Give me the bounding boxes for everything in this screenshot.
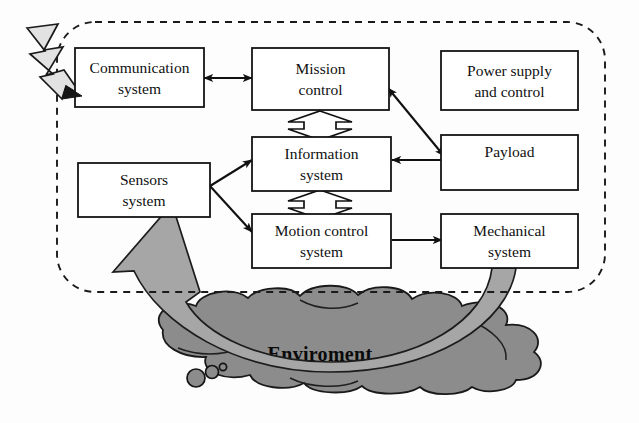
node-mission-line2: control	[299, 81, 343, 98]
node-information-line2: system	[300, 166, 343, 183]
connector-mission-information	[288, 111, 352, 140]
node-power-line2: and control	[474, 83, 544, 100]
node-power-supply[interactable]: Power supply and control	[441, 51, 578, 110]
node-payload[interactable]: Payload	[441, 135, 578, 190]
node-sensors-system[interactable]: Sensors system	[78, 163, 210, 217]
node-communication-line1: Communication	[90, 59, 190, 76]
node-motion-line1: Motion control	[275, 222, 368, 239]
node-sensors-line1: Sensors	[120, 171, 168, 188]
node-mechanical-line2: system	[488, 243, 531, 260]
bubble-small	[206, 366, 219, 379]
node-power-rect	[441, 51, 578, 110]
node-payload-line1: Payload	[485, 143, 535, 160]
node-communication-system[interactable]: Communication system	[75, 48, 204, 107]
node-communication-rect	[75, 48, 204, 107]
connector-mission-payload	[388, 88, 444, 156]
node-information-system[interactable]: Information system	[252, 137, 391, 191]
bubbles-icon	[187, 369, 205, 387]
connector-sensors-motion	[210, 186, 252, 232]
node-mission-rect	[252, 48, 389, 110]
node-power-line1: Power supply	[467, 62, 552, 79]
lightning-bolt-icon	[27, 24, 82, 99]
node-mission-line1: Mission	[296, 60, 346, 77]
connector-sensors-information	[210, 160, 252, 186]
node-information-line1: Information	[284, 145, 358, 162]
node-sensors-line2: system	[122, 192, 165, 209]
diagram-canvas: Enviroment	[0, 0, 639, 423]
node-mechanical-system[interactable]: Mechanical system	[441, 214, 578, 268]
node-motion-line2: system	[300, 243, 343, 260]
architecture-diagram: Enviroment	[0, 0, 639, 423]
node-motion-control-system[interactable]: Motion control system	[252, 214, 391, 268]
bubble-tiny	[219, 363, 226, 370]
node-communication-line2: system	[118, 80, 161, 97]
node-mission-control[interactable]: Mission control	[252, 48, 389, 110]
node-mechanical-line1: Mechanical	[473, 222, 545, 239]
